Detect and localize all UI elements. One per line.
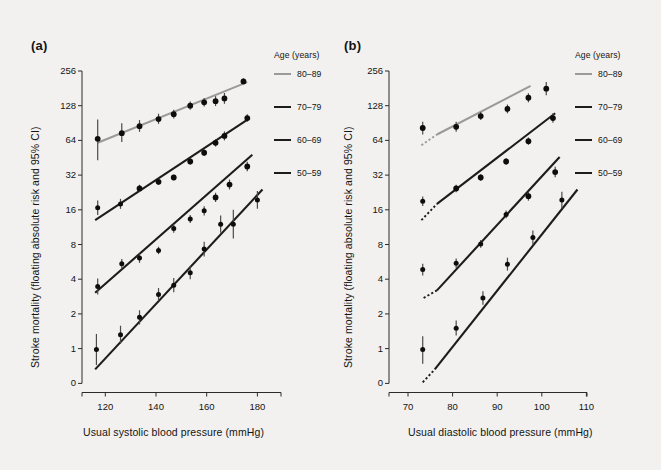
legend-line-swatch — [575, 73, 592, 75]
y-tick-label: 32 — [42, 169, 76, 180]
y-tick-label: 2 — [349, 308, 383, 319]
y-tick-label: 16 — [42, 204, 76, 215]
legend-item-60-69: 60–69 — [274, 135, 321, 145]
legend-item-50-59: 50–59 — [575, 168, 622, 178]
legend-item-label: 60–69 — [297, 135, 321, 145]
y-tick-label: 128 — [42, 100, 76, 111]
y-tick-label: 4 — [42, 273, 76, 284]
x-tick-label: 100 — [528, 401, 556, 412]
y-tick-label: 64 — [42, 134, 76, 145]
legend-item-label: 50–59 — [598, 168, 622, 178]
panel-a-y-axis-label: Stroke mortality (floating absolute risk… — [29, 126, 41, 368]
legend-item-label: 80–89 — [297, 69, 321, 79]
x-tick-label: 110 — [572, 401, 600, 412]
x-tick-label: 160 — [193, 401, 221, 412]
y-tick-label: 128 — [349, 100, 383, 111]
y-tick-label: 32 — [349, 169, 383, 180]
legend-item-label: 70–79 — [297, 102, 321, 112]
legend-line-swatch — [575, 139, 592, 141]
legend-item-80-89: 80–89 — [274, 69, 321, 79]
legend-line-swatch — [274, 172, 291, 174]
x-tick-label: 70 — [394, 401, 422, 412]
y-tick-label: 4 — [349, 273, 383, 284]
legend-line-swatch — [575, 106, 592, 108]
panel-a-x-axis-label: Usual systolic blood pressure (mmHg) — [83, 426, 264, 438]
panel-b: (b) Stroke mortality (floating absolute … — [330, 0, 661, 470]
panel-b-legend: Age (years) 80–8970–7960–6950–59 — [575, 50, 622, 201]
x-tick-label: 180 — [243, 401, 271, 412]
legend-line-swatch — [575, 172, 592, 174]
legend-item-label: 80–89 — [598, 69, 622, 79]
panel-a-legend: Age (years) 80–8970–7960–6950–59 — [274, 50, 321, 201]
legend-line-swatch — [274, 139, 291, 141]
panel-a: (a) Stroke mortality (floating absolute … — [0, 0, 331, 470]
y-tick-label: 2 — [42, 308, 76, 319]
y-tick-label: 256 — [349, 65, 383, 76]
legend-line-swatch — [274, 73, 291, 75]
y-tick-label: 256 — [42, 65, 76, 76]
legend-item-label: 60–69 — [598, 135, 622, 145]
x-tick-label: 140 — [142, 401, 170, 412]
legend-item-50-59: 50–59 — [274, 168, 321, 178]
legend-line-swatch — [274, 106, 291, 108]
panel-b-x-axis-label: Usual diastolic blood pressure (mmHg) — [408, 426, 593, 438]
y-tick-label: 16 — [349, 204, 383, 215]
legend-item-70-79: 70–79 — [575, 102, 622, 112]
y-tick-label: 1 — [349, 343, 383, 354]
y-tick-label: 8 — [42, 239, 76, 250]
legend-item-label: 50–59 — [297, 168, 321, 178]
y-tick-label: 0 — [42, 377, 76, 388]
y-tick-label: 0 — [349, 377, 383, 388]
legend-item-60-69: 60–69 — [575, 135, 622, 145]
legend-item-70-79: 70–79 — [274, 102, 321, 112]
stroke-mortality-figure: (a) Stroke mortality (floating absolute … — [0, 0, 661, 470]
legend-title: Age (years) — [575, 50, 622, 60]
y-tick-label: 1 — [42, 343, 76, 354]
x-tick-label: 90 — [483, 401, 511, 412]
x-tick-label: 120 — [91, 401, 119, 412]
legend-title: Age (years) — [274, 50, 321, 60]
legend-item-80-89: 80–89 — [575, 69, 622, 79]
y-tick-label: 8 — [349, 239, 383, 250]
y-tick-label: 64 — [349, 134, 383, 145]
x-tick-label: 80 — [439, 401, 467, 412]
legend-item-label: 70–79 — [598, 102, 622, 112]
